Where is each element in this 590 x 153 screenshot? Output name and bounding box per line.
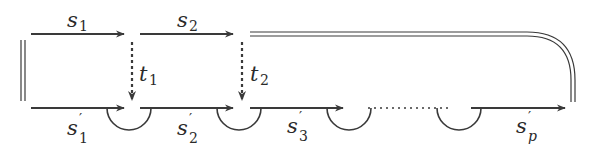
svg-text:′: ′	[299, 109, 302, 125]
svg-text:s: s	[516, 114, 527, 138]
commutative-diagram: s 1 s 2 t 1 t 2 s ′ 1 s ′ 2 s ′ 3	[0, 0, 590, 153]
svg-text:2: 2	[260, 72, 269, 88]
svg-text:1: 1	[149, 72, 158, 88]
label-t1: t 1	[139, 62, 158, 88]
svg-text:t: t	[139, 62, 148, 86]
svg-text:1: 1	[79, 130, 88, 146]
svg-text:2: 2	[189, 130, 198, 146]
diagram-canvas: s 1 s 2 t 1 t 2 s ′ 1 s ′ 2 s ′ 3	[0, 0, 590, 153]
top-double-line	[250, 32, 575, 102]
svg-text:2: 2	[189, 18, 198, 34]
semicircle-3	[327, 108, 371, 130]
semicircle-2	[217, 108, 261, 130]
svg-text:s: s	[67, 8, 78, 32]
label-s2: s 2	[177, 8, 198, 34]
semicircle-1	[107, 108, 151, 130]
svg-text:3: 3	[299, 128, 308, 144]
label-s3-prime: s ′ 3	[287, 109, 308, 144]
svg-text:′: ′	[189, 111, 192, 127]
svg-text:s: s	[287, 114, 298, 138]
label-s1: s 1	[67, 8, 88, 34]
svg-text:t: t	[250, 62, 259, 86]
left-double-line	[21, 40, 25, 101]
label-s1-prime: s ′ 1	[67, 111, 88, 146]
svg-text:s: s	[67, 116, 78, 140]
label-s2-prime: s ′ 2	[177, 111, 198, 146]
svg-text:s: s	[177, 116, 188, 140]
svg-text:′: ′	[79, 111, 82, 127]
label-t2: t 2	[250, 62, 269, 88]
svg-text:p: p	[528, 128, 537, 144]
svg-text:1: 1	[79, 18, 88, 34]
label-sp-prime: s ′ p	[516, 109, 537, 144]
semicircle-4	[437, 108, 481, 130]
svg-text:′: ′	[528, 109, 531, 125]
svg-text:s: s	[177, 8, 188, 32]
